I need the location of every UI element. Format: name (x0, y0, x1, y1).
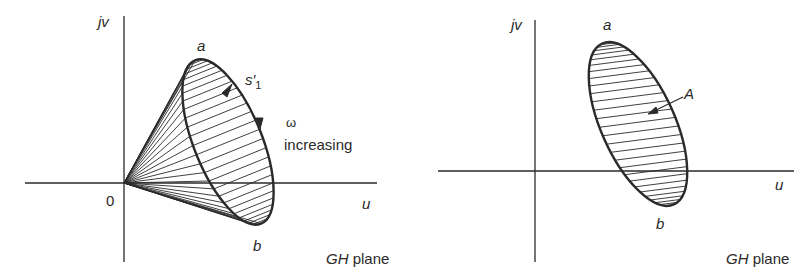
left-u-label: u (362, 196, 370, 211)
region-pointer-arrow-icon (648, 107, 658, 114)
left-point-b-label: b (253, 238, 261, 253)
diagram-canvas (0, 0, 808, 277)
increasing-label: increasing (284, 137, 352, 152)
left-jv-label: jv (98, 14, 109, 29)
right-u-label: u (775, 177, 783, 192)
left-plane-gh: GH (326, 250, 349, 267)
contour-s-letter: s (245, 71, 253, 88)
origin-label: 0 (106, 193, 114, 208)
left-plane-label: GH plane (326, 251, 389, 266)
right-plane-rest: plane (749, 250, 790, 267)
right-plane-gh: GH (726, 250, 749, 267)
region-a-label: A (684, 86, 694, 101)
contour-subscript: 1 (255, 79, 261, 91)
right-point-b-label: b (656, 216, 664, 231)
left-plane-rest: plane (349, 250, 390, 267)
omega-label: ω (286, 116, 296, 129)
right-hatch (589, 42, 687, 204)
right-region-ellipse (568, 29, 707, 220)
right-jv-label: jv (511, 17, 522, 32)
right-point-a-label: a (603, 17, 611, 32)
right-plane-label: GH plane (726, 251, 789, 266)
contour-s1-label: s′1 (245, 72, 261, 91)
left-point-a-label: a (197, 38, 205, 53)
